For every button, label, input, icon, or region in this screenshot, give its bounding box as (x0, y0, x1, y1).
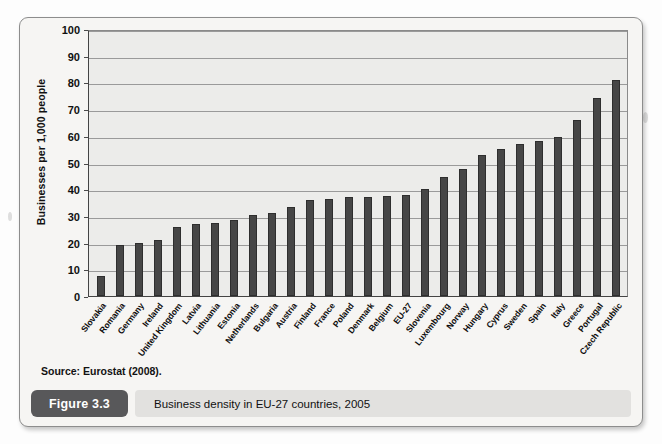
bar-series (89, 31, 627, 296)
bar-slot (377, 31, 396, 296)
bar-slot (186, 31, 205, 296)
caption-bar: Figure 3.3 Business density in EU-27 cou… (31, 390, 631, 417)
bar-portugal (593, 98, 601, 296)
bar-luxembourg (440, 177, 448, 296)
bar-slot (549, 31, 568, 296)
y-axis-label: Businesses per 1,000 people (35, 47, 47, 257)
x-label-slot: Sweden (511, 299, 530, 361)
bar-slot (511, 31, 530, 296)
x-label-slot: Hungary (473, 299, 492, 361)
y-tick-label-60: 60 (68, 131, 80, 143)
bar-slot (91, 31, 110, 296)
x-label-slot: Finland (301, 299, 320, 361)
y-tick-label-30: 30 (68, 211, 80, 223)
bar-estonia (230, 220, 238, 296)
bar-denmark (364, 197, 372, 296)
bar-slot (225, 31, 244, 296)
bar-slot (568, 31, 587, 296)
bar-slot (129, 31, 148, 296)
bar-bulgaria (268, 213, 276, 296)
page-root: Businesses per 1,000 people 010203040506… (0, 0, 662, 444)
bar-hungary (478, 155, 486, 297)
bar-finland (306, 200, 314, 296)
bar-slovakia (97, 276, 105, 296)
bar-sweden (516, 144, 524, 296)
bar-slot (282, 31, 301, 296)
bar-chart: Businesses per 1,000 people 010203040506… (20, 18, 644, 358)
bar-slot (358, 31, 377, 296)
bar-slot (339, 31, 358, 296)
bar-slovenia (421, 189, 429, 296)
y-tick-label-70: 70 (68, 104, 80, 116)
bar-romania (116, 245, 124, 296)
bar-slot (587, 31, 606, 296)
plot-area (88, 30, 628, 297)
x-label-slot: Bulgaria (262, 299, 281, 361)
figure-panel: Businesses per 1,000 people 010203040506… (19, 17, 643, 427)
figure-caption: Business density in EU-27 countries, 200… (135, 390, 631, 417)
bar-slot (205, 31, 224, 296)
bar-cyprus (497, 149, 505, 296)
bar-slot (530, 31, 549, 296)
bar-slot (167, 31, 186, 296)
y-tick-mark (84, 297, 88, 298)
bar-eu-27 (402, 195, 410, 296)
bar-slot (110, 31, 129, 296)
bar-slot (396, 31, 415, 296)
x-label-slot: Italy (549, 299, 568, 361)
bar-greece (573, 120, 581, 296)
bar-norway (459, 169, 467, 296)
y-tick-label-90: 90 (68, 51, 80, 63)
figure-number-badge: Figure 3.3 (31, 390, 128, 417)
source-note: Source: Eurostat (2008). (41, 365, 162, 377)
bar-slot (453, 31, 472, 296)
bar-slot (492, 31, 511, 296)
bar-italy (554, 137, 562, 296)
x-axis-labels: SlovakiaRomaniaGermanyIrelandUnited King… (88, 299, 628, 361)
bar-slot (244, 31, 263, 296)
x-label-slot: Spain (530, 299, 549, 361)
scan-speck (8, 212, 12, 221)
bar-latvia (192, 224, 200, 296)
x-label-slot: United Kingdom (167, 299, 186, 361)
bar-austria (287, 207, 295, 296)
y-tick-label-0: 0 (74, 291, 80, 303)
x-label-slot: France (320, 299, 339, 361)
bar-slot (473, 31, 492, 296)
y-tick-label-100: 100 (62, 24, 80, 36)
bar-czech-republic (612, 80, 620, 296)
y-tick-label-20: 20 (68, 238, 80, 250)
y-tick-label-50: 50 (68, 158, 80, 170)
bar-united-kingdom (173, 227, 181, 296)
bar-belgium (383, 196, 391, 296)
bar-ireland (154, 240, 162, 296)
bar-lithuania (211, 223, 219, 296)
bar-france (325, 199, 333, 296)
bar-slot (320, 31, 339, 296)
bar-slot (263, 31, 282, 296)
x-label-slot: Belgium (377, 299, 396, 361)
bar-slot (148, 31, 167, 296)
bar-slot (301, 31, 320, 296)
bar-slot (434, 31, 453, 296)
x-label-slot: Czech Republic (607, 299, 626, 361)
y-tick-label-10: 10 (68, 264, 80, 276)
y-axis-ticks: 0102030405060708090100 (48, 30, 84, 297)
y-tick-label-80: 80 (68, 77, 80, 89)
bar-netherlands (249, 215, 257, 296)
bar-slot (415, 31, 434, 296)
bar-germany (135, 243, 143, 296)
bar-slot (606, 31, 625, 296)
bar-poland (345, 197, 353, 296)
bar-spain (535, 141, 543, 296)
y-tick-label-40: 40 (68, 184, 80, 196)
